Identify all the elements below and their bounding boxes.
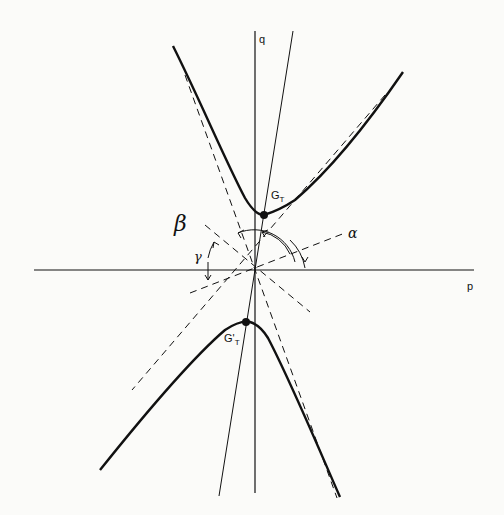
lower-vertex-label: G'T (224, 333, 240, 347)
lower-vertex-point (242, 318, 250, 326)
hyperbola-diagram (0, 0, 504, 515)
lower-vertex-name: G' (224, 332, 235, 344)
beta-label: β (174, 213, 187, 235)
upper-vertex-label: GT (271, 190, 284, 204)
gamma-label: γ (194, 250, 202, 263)
asymptotes (132, 75, 385, 498)
p-axis-label: p (467, 281, 473, 292)
lower-branch (100, 322, 340, 497)
lower-vertex-subscript: T (235, 338, 240, 347)
angle-arcs (208, 230, 305, 280)
upper-branch (173, 46, 403, 215)
q-axis-label: q (259, 34, 265, 45)
upper-vertex-subscript: T (280, 195, 285, 204)
tilted-axis (219, 31, 293, 496)
diagram-canvas: q p GT G'T α β γ (0, 0, 504, 515)
alpha-label: α (348, 226, 357, 240)
upper-vertex-point (260, 211, 268, 219)
upper-vertex-name: G (271, 189, 280, 201)
